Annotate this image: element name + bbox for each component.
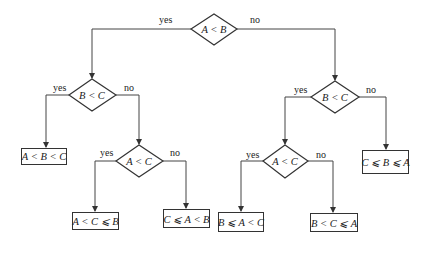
outcome-box-4: B ⩽ A < C [218,212,264,232]
branch-label-root-yes: yes [159,15,172,25]
decision-left-label: B < C [79,91,105,102]
branch-label-right-yes: yes [294,85,307,95]
decision-left-inner-label: A < C [126,157,152,168]
outcome-label: B < C ⩽ A [311,217,357,229]
branch-label-left-yes: yes [53,83,66,93]
branch-label-right-inner-yes: yes [246,150,259,160]
outcome-label: C ⩽ B ⩽ A [361,156,409,168]
outcome-box-1: A < B < C [21,148,67,165]
outcome-label: A < B < C [22,151,66,162]
branch-label-root-no: no [250,15,260,25]
outcome-box-5: B < C ⩽ A [310,213,358,232]
outcome-box-3: C ⩽ A < B [163,209,210,228]
outcome-label: A < C ⩽ B [72,215,118,227]
branch-label-left-inner-yes: yes [100,148,113,158]
branch-label-right-inner-no: no [316,150,326,160]
decision-right-inner-label: A < C [272,157,298,168]
branch-label-left-no: no [124,83,134,93]
branch-label-right-no: no [366,85,376,95]
decision-root-label: A < B [202,25,227,36]
outcome-label: C ⩽ A < B [163,213,209,225]
outcome-box-6: C ⩽ B ⩽ A [362,150,409,174]
decision-right-label: B < C [322,93,348,104]
outcome-label: B ⩽ A < C [218,216,264,228]
branch-label-left-inner-no: no [170,148,180,158]
flowchart-canvas [0,0,430,254]
outcome-box-2: A < C ⩽ B [72,212,119,230]
